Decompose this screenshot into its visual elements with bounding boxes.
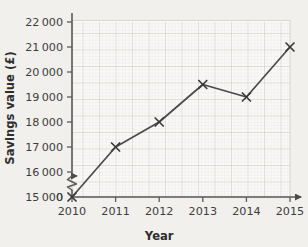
y-tick-label-18000: 18 000	[25, 116, 63, 129]
line-chart-svg: 22 000 21 000 20 000 19 000 18 000 17 00…	[0, 0, 308, 247]
y-tick-label-20000: 20 000	[25, 66, 63, 79]
x-tick-label-2014: 2014	[232, 205, 260, 218]
x-axis-title: Year	[144, 229, 174, 243]
x-tick-label-2010: 2010	[58, 205, 86, 218]
x-tick-label-2015: 2015	[276, 205, 304, 218]
chart-figure: 22 000 21 000 20 000 19 000 18 000 17 00…	[0, 0, 308, 247]
y-tick-label-22000: 22 000	[25, 16, 63, 29]
y-axis-title: Savings value (£)	[3, 51, 17, 164]
y-tick-label-19000: 19 000	[25, 91, 63, 104]
y-tick-label-17000: 17 000	[25, 141, 63, 154]
x-tick-label-2011: 2011	[101, 205, 129, 218]
y-tick-label-16000: 16 000	[25, 166, 63, 179]
plot-area	[72, 21, 290, 198]
x-tick-label-2013: 2013	[189, 205, 217, 218]
x-tick-label-2012: 2012	[145, 205, 173, 218]
grid	[72, 22, 290, 197]
y-tick-label-zero: 0	[56, 191, 63, 204]
y-tick-label-21000: 21 000	[25, 41, 63, 54]
